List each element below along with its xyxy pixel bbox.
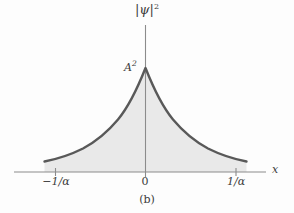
peak-amplitude-label: A2 (124, 60, 137, 73)
peak-label-base: A (124, 61, 132, 74)
x-tick-label-one-over-alpha: 1/α (216, 176, 256, 187)
y-axis-label-psi: ψ (139, 2, 149, 17)
y-axis-label: |ψ|2 (0, 3, 294, 16)
peak-label-exponent: 2 (132, 59, 137, 68)
x-axis-label: x (272, 164, 278, 175)
panel-caption: (b) (0, 193, 294, 206)
figure-panel-b: |ψ|2 A2 −1/α 0 1/α x (b) (0, 0, 294, 213)
x-tick-label-negative-one-over-alpha: −1/α (34, 176, 78, 187)
y-axis-label-exponent: 2 (154, 2, 159, 11)
x-tick-label-zero: 0 (128, 176, 162, 187)
